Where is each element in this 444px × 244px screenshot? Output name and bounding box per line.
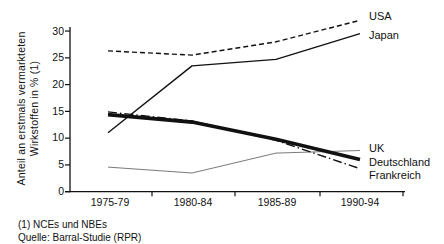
- footnote-source: Quelle: Barral-Studie (RPR): [18, 231, 141, 244]
- series-line-deutschland: [108, 115, 360, 160]
- x-tick-label-1985-89: 1985-89: [245, 196, 309, 209]
- series-line-frankreich: [108, 112, 360, 169]
- chart-canvas: Anteil an erstmals vermarkteten Wirkstof…: [0, 0, 444, 244]
- footnote-definition: (1) NCEs und NBEs: [18, 218, 107, 231]
- series-line-uk: [108, 151, 360, 174]
- series-line-usa: [108, 20, 360, 55]
- x-tick-label-1990-94: 1990-94: [328, 196, 392, 209]
- series-label-usa: USA: [369, 10, 392, 23]
- series-label-deutschland: Deutschland: [369, 156, 430, 169]
- series-label-uk: UK: [369, 142, 384, 155]
- x-tick-label-1975-79: 1975-79: [78, 196, 142, 209]
- series-label-frankreich: Frankreich: [369, 169, 421, 182]
- x-tick-label-1980-84: 1980-84: [161, 196, 225, 209]
- series-label-japan: Japan: [369, 29, 399, 42]
